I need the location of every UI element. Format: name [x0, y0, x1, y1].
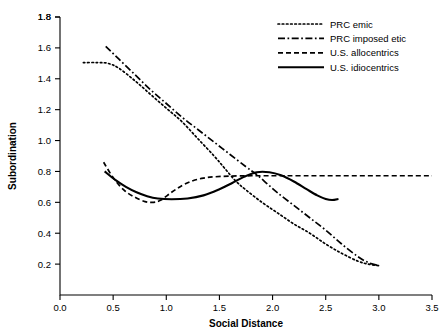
chart-legend: PRC emicPRC imposed eticU.S. allocentric…: [278, 19, 406, 73]
y-axis-title: Subordination: [7, 122, 18, 190]
legend-label-1: PRC emic: [330, 19, 373, 30]
legend-label-3: U.S. allocentrics: [330, 47, 399, 58]
series-line-prc-emic: [83, 63, 378, 266]
line-chart: 0.00.51.01.52.02.53.03.5 0.20.40.60.81.0…: [0, 0, 447, 334]
x-tick-labels: 0.00.51.01.52.02.53.03.5: [53, 302, 438, 313]
y-tick-labels: 0.20.40.60.81.01.21.41.61.81.8: [38, 11, 51, 269]
tick-marks: [55, 17, 432, 300]
x-tick-label-1.5: 1.5: [213, 302, 226, 313]
y-tick-label-1.0: 1.0: [38, 135, 51, 146]
y-tick-label-1.6: 1.6: [38, 42, 51, 53]
y-tick-label-0.8: 0.8: [38, 166, 51, 177]
y-tick-label-1.8: 1.8: [38, 11, 51, 22]
x-tick-label-3.5: 3.5: [425, 302, 438, 313]
y-tick-label-1.2: 1.2: [38, 104, 51, 115]
y-tick-label-0.2: 0.2: [38, 259, 51, 270]
x-tick-label-0.0: 0.0: [53, 302, 66, 313]
x-tick-label-0.5: 0.5: [107, 302, 120, 313]
y-tick-label-0.4: 0.4: [38, 228, 51, 239]
x-axis-title: Social Distance: [209, 318, 283, 329]
x-tick-label-2.5: 2.5: [319, 302, 332, 313]
series-line-u-s-idiocentrics: [105, 171, 339, 200]
x-tick-label-1.0: 1.0: [160, 302, 173, 313]
series-line-prc-imposed-etic: [106, 46, 379, 265]
chart-figure: 0.00.51.01.52.02.53.03.5 0.20.40.60.81.0…: [0, 0, 447, 334]
y-tick-label-0.6: 0.6: [38, 197, 51, 208]
x-tick-label-2.0: 2.0: [266, 302, 279, 313]
data-series-group: [83, 46, 432, 265]
x-tick-label-3.0: 3.0: [372, 302, 385, 313]
series-line-u-s-allocentrics: [104, 162, 432, 202]
axes: [60, 17, 432, 295]
y-tick-label-1.4: 1.4: [38, 73, 51, 84]
legend-label-2: PRC imposed etic: [330, 33, 406, 44]
legend-label-4: U.S. idiocentrics: [330, 62, 399, 73]
axis-spines: [60, 17, 432, 295]
